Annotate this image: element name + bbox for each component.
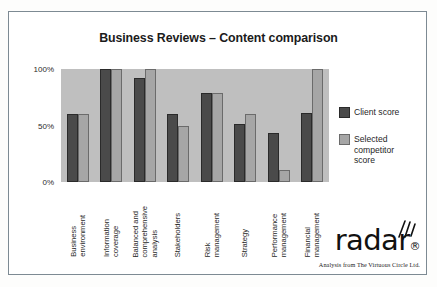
x-axis-label: Business environment [68,215,87,257]
bar-group [61,69,95,182]
x-axis-label: Performance management [269,213,288,257]
radar-logo: radar® Analysis from The Virtuous Circle… [296,225,420,268]
x-axis-label-slot: Information coverage [95,184,129,258]
bar-client [167,114,178,182]
x-axis-label-slot: Performance management [262,184,296,258]
logo-tagline: Analysis from The Virtuous Circle Ltd. [296,261,420,268]
logo-wordmark: radar® [335,225,420,262]
page-title: Business Reviews – Content comparison [9,31,428,45]
slide-canvas: Business Reviews – Content comparison 0%… [0,0,437,287]
bar-client [134,78,145,182]
x-axis-label: Risk management [202,213,221,257]
bar-competitor [212,93,223,182]
bar-competitor [245,114,256,182]
bar-group [95,69,129,182]
bar-competitor [312,69,323,182]
x-axis-label-slot: Business environment [61,184,95,258]
y-axis: 0%50%100% [19,69,57,182]
y-axis-tick: 50% [38,121,54,130]
x-axis-label: Strategy [241,229,250,257]
bar-competitor [78,114,89,182]
bar-competitor [279,170,290,182]
x-axis-label: Information coverage [102,219,121,257]
bar-client [67,114,78,182]
bar-group [195,69,229,182]
legend-item[interactable]: Selected competitor score [339,134,425,166]
plot-area [61,69,329,182]
bar-client [268,133,279,182]
bar-client [201,93,212,182]
legend-swatch-icon [339,134,350,145]
x-axis: Business environmentInformation coverage… [61,184,329,258]
legend-label: Client score [354,107,399,118]
x-axis-label-slot: Stakeholders [162,184,196,258]
signal-arcs-icon [396,220,418,238]
y-axis-tick: 0% [42,178,54,187]
chart-frame: Business Reviews – Content comparison 0%… [8,11,427,275]
bar-client [301,113,312,182]
legend-swatch-icon [339,107,350,118]
bar-group [162,69,196,182]
legend-item[interactable]: Client score [339,107,425,118]
x-axis-label-slot: Balanced and comprehensive analysis [128,184,162,258]
x-axis-label: Balanced and comprehensive analysis [131,206,159,258]
bar-competitor [111,69,122,182]
y-axis-tick: 100% [34,65,54,74]
x-axis-label-slot: Risk management [195,184,229,258]
bar-competitor [145,69,156,182]
x-axis-label-slot: Strategy [229,184,263,258]
bar-client [234,124,245,182]
chart-legend: Client scoreSelected competitor score [339,107,425,182]
x-axis-label: Stakeholders [174,213,183,257]
bars-layer [61,69,329,182]
bar-group [296,69,330,182]
bar-group [128,69,162,182]
bar-competitor [178,126,189,183]
bar-client [100,69,111,182]
logo-registered-mark: ® [410,240,420,253]
legend-label: Selected competitor score [354,134,394,166]
bar-group [229,69,263,182]
bar-group [262,69,296,182]
